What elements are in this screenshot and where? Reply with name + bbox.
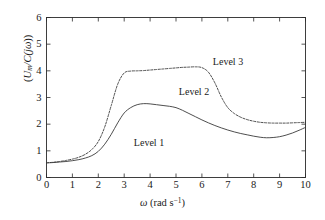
x-tick-label: 9 — [277, 180, 282, 191]
axis-frame — [47, 18, 306, 178]
axis-ticks — [47, 18, 306, 178]
annotation-level-1: Level 1 — [134, 137, 164, 148]
x-tick-label: 8 — [251, 180, 256, 191]
y-axis-close-paren: )) — [22, 35, 33, 42]
x-axis-unit-open: (rad s — [147, 197, 173, 208]
y-tick-label: 1 — [28, 146, 42, 157]
x-tick-label: 7 — [225, 180, 230, 191]
x-tick-label: 4 — [147, 180, 152, 191]
y-axis-open-paren: ( — [22, 78, 33, 82]
x-tick-label: 2 — [96, 180, 101, 191]
y-axis-label: (Um/C(jω)) — [22, 0, 35, 138]
x-axis-unit-exponent: −1 — [174, 196, 182, 205]
curve-level-1 — [47, 104, 306, 163]
x-tick-label: 5 — [173, 180, 178, 191]
y-axis-omega-symbol: ω — [22, 42, 33, 49]
y-axis-u-subscript: m — [25, 65, 34, 70]
figure-container: 012345678910 0123456 ω (rad s−1) (Um/C(j… — [0, 0, 325, 220]
annotation-level-3: Level 3 — [213, 56, 243, 67]
y-tick-label: 0 — [28, 172, 42, 183]
curve-level-2 — [47, 67, 306, 163]
x-tick-label: 3 — [122, 180, 127, 191]
y-axis-mid-expression: /C(j — [22, 49, 33, 65]
plot-frame — [47, 18, 306, 178]
annotation-level-2: Level 2 — [179, 86, 209, 97]
y-axis-u-symbol: U — [22, 71, 33, 79]
x-tick-label: 6 — [199, 180, 204, 191]
x-tick-label: 0 — [44, 180, 49, 191]
x-tick-label: 10 — [300, 180, 311, 191]
x-tick-label: 1 — [70, 180, 75, 191]
x-axis-unit-close: ) — [182, 197, 186, 208]
x-axis-label: ω (rad s−1) — [0, 196, 325, 208]
